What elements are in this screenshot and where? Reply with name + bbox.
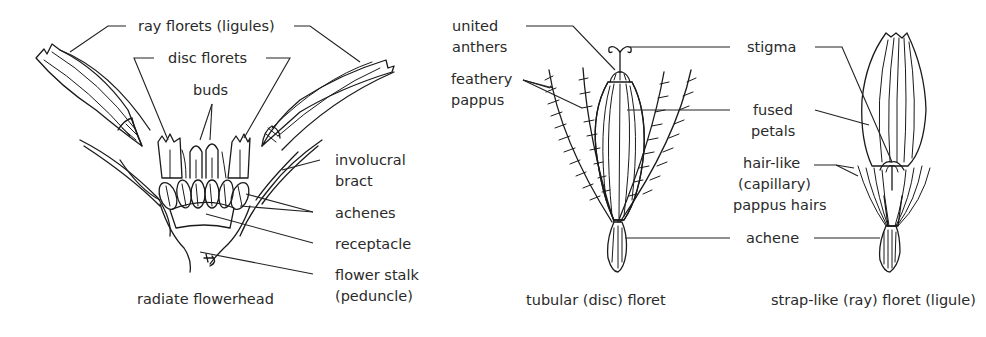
- left-ray-floret: [36, 44, 150, 146]
- right-ray-floret: [262, 60, 394, 150]
- label-flower-stalk-2: (peduncle): [335, 288, 413, 304]
- caption-strap-floret: strap-like (ray) floret (ligule): [771, 292, 976, 308]
- label-capillary-pappus-2: (capillary): [738, 176, 811, 192]
- strap-labels: strap-like (ray) floret (ligule): [771, 292, 976, 308]
- label-capillary-pappus-3: pappus hairs: [733, 197, 826, 213]
- label-feathery-pappus-1: feathery: [451, 71, 513, 87]
- label-receptacle: receptacle: [335, 236, 411, 252]
- label-buds: buds: [193, 82, 228, 98]
- capillary-pappus-hairs: [858, 166, 930, 226]
- caption-tubular-floret: tubular (disc) floret: [526, 292, 666, 308]
- label-feathery-pappus-2: pappus: [451, 92, 504, 108]
- label-fused-petals-2: petals: [751, 123, 795, 139]
- label-united-anthers-1: united: [452, 18, 498, 34]
- radiate-labels: ray florets (ligules) disc florets buds …: [137, 18, 420, 307]
- label-united-anthers-2: anthers: [452, 39, 507, 55]
- receptacle-and-stalk: [160, 202, 250, 272]
- shared-labels: stigma fused petals hair-like (capillary…: [733, 39, 826, 246]
- strap-floret-drawing: [858, 33, 930, 272]
- feathery-pappus-bristles: [545, 68, 696, 222]
- label-fused-petals-1: fused: [753, 102, 793, 118]
- disc-florets: [158, 134, 250, 178]
- tubular-labels: united anthers feathery pappus tubular (…: [451, 18, 666, 308]
- strap-achene: [880, 226, 900, 272]
- label-disc-florets: disc florets: [168, 50, 247, 66]
- tubular-achene: [608, 222, 627, 272]
- strap-ligule: [862, 33, 926, 166]
- label-ray-florets: ray florets (ligules): [138, 18, 275, 34]
- label-stigma: stigma: [747, 39, 796, 55]
- label-involucral-bract-2: bract: [335, 173, 373, 189]
- tubular-leader-lines: [523, 26, 730, 238]
- label-involucral-bract-1: involucral: [335, 152, 406, 168]
- flower-diagram: ray florets (ligules) disc florets buds …: [0, 0, 986, 337]
- label-achene: achene: [746, 230, 799, 246]
- involucral-bracts: [80, 140, 322, 236]
- label-capillary-pappus-1: hair-like: [743, 155, 800, 171]
- achenes-row: [156, 179, 253, 212]
- caption-radiate-flowerhead: radiate flowerhead: [137, 291, 274, 307]
- label-flower-stalk-1: flower stalk: [335, 267, 420, 283]
- label-achenes: achenes: [335, 205, 396, 221]
